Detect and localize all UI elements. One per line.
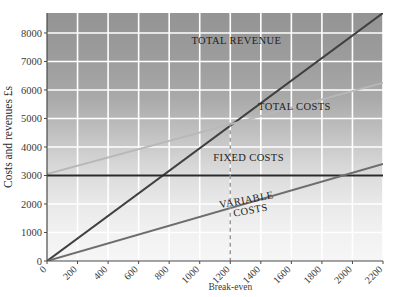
y-axis-label: Costs and revenues £s <box>2 86 14 188</box>
y-tick-label: 8000 <box>21 28 42 39</box>
y-tick-label: 6000 <box>21 85 42 96</box>
break-even-caption: Break-even <box>208 282 252 292</box>
series-label-total-costs: TOTAL COSTS <box>258 101 331 112</box>
y-tick-label: 1000 <box>21 227 42 238</box>
y-tick-label: 3000 <box>21 170 42 181</box>
y-tick-label: 2000 <box>21 199 42 210</box>
y-tick-label: 4000 <box>21 142 42 153</box>
y-tick-label: 5000 <box>21 113 42 124</box>
series-label-total-revenue: TOTAL REVENUE <box>191 35 281 46</box>
y-tick-label: 7000 <box>21 56 42 67</box>
break-even-chart: 010002000300040005000600070008000 020040… <box>0 0 398 297</box>
chart-canvas: 010002000300040005000600070008000 020040… <box>0 0 398 297</box>
series-label-fixed-costs: FIXED COSTS <box>213 152 284 163</box>
